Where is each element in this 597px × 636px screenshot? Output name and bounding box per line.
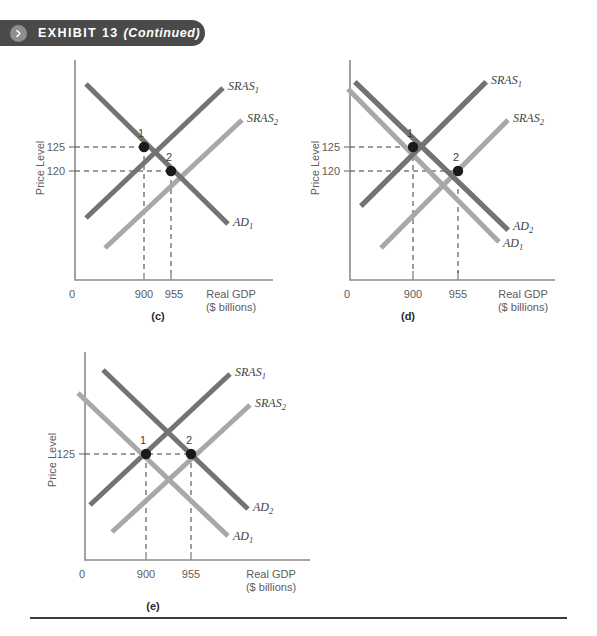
exhibit-number: EXHIBIT 13 (38, 26, 119, 40)
point-label-1: 1 (140, 434, 146, 446)
page-bottom-rule (30, 617, 567, 619)
exhibit-continued-label: (Continued) (124, 26, 201, 40)
xtick-label-955: 955 (449, 288, 467, 300)
ytick-label-120: 120 (322, 165, 340, 177)
point-label-1: 1 (407, 127, 413, 139)
curve-label-sras2: SRAS2 (247, 111, 279, 127)
xtick-label-955: 955 (165, 288, 183, 300)
chart-svg-c: 1 2 SRAS1 SRAS2 AD1 125 120 0 900 955 Re… (28, 58, 288, 318)
equilibrium-point-2 (186, 449, 196, 459)
point-label-2: 2 (166, 151, 172, 163)
equilibrium-point-1 (139, 142, 149, 152)
equilibrium-point-2 (166, 166, 176, 176)
curve-ad1 (78, 393, 228, 536)
exhibit-header-banner: EXHIBIT 13 (Continued) (0, 20, 205, 46)
curve-label-sras2: SRAS2 (513, 111, 545, 127)
curve-ad1 (348, 89, 499, 242)
xaxis-title-line2: ($ billions) (246, 581, 296, 593)
curve-label-ad1: AD1 (232, 215, 253, 231)
yaxis-title: Price Level (34, 141, 46, 195)
curve-label-ad2: AD2 (512, 219, 534, 235)
ytick-label-125: 125 (47, 141, 65, 153)
panel-caption-d: (d) (268, 310, 548, 322)
chevron-right-icon (10, 25, 27, 42)
chart-panel-d: 1 2 SRAS1 SRAS2 AD2 AD1 125 120 0 900 95… (303, 58, 583, 318)
ytick-label-125: 125 (57, 448, 75, 460)
ytick-label-120: 120 (47, 165, 65, 177)
curve-sras2 (105, 120, 242, 248)
point-label-2: 2 (453, 151, 459, 163)
curve-label-sras2: SRAS2 (255, 396, 287, 412)
point-label-2: 2 (186, 434, 192, 446)
curve-label-ad1: AD1 (232, 529, 253, 545)
equilibrium-point-1 (141, 449, 151, 459)
curve-label-ad1: AD1 (502, 236, 523, 252)
point-label-1: 1 (138, 127, 144, 139)
chart-svg-d: 1 2 SRAS1 SRAS2 AD2 AD1 125 120 0 900 95… (303, 58, 583, 318)
chart-panel-e: 1 2 SRAS1 SRAS2 AD2 AD1 125 0 900 955 Re… (58, 350, 338, 615)
xaxis-title-line1: Real GDP (206, 288, 256, 300)
xtick-label-955: 955 (182, 568, 200, 580)
yaxis-title: Price Level (46, 433, 58, 487)
curve-label-sras1: SRAS1 (228, 79, 259, 95)
page-title: EXHIBIT 13 (Continued) (38, 26, 200, 40)
chart-panel-c: 1 2 SRAS1 SRAS2 AD1 125 120 0 900 955 Re… (28, 58, 288, 318)
xaxis-title-line1: Real GDP (246, 568, 296, 580)
panel-caption-e: (e) (13, 600, 293, 612)
curve-label-sras1: SRAS1 (491, 73, 522, 89)
origin-label: 0 (79, 568, 85, 580)
curve-ad2-overlay (355, 82, 508, 230)
equilibrium-point-1 (408, 142, 418, 152)
curve-label-ad2: AD2 (252, 500, 274, 516)
origin-label: 0 (69, 288, 75, 300)
xtick-label-900: 900 (137, 568, 155, 580)
xtick-label-900: 900 (404, 288, 422, 300)
xtick-label-900: 900 (135, 288, 153, 300)
panel-caption-c: (c) (28, 310, 288, 322)
curve-sras2 (112, 405, 250, 532)
origin-label: 0 (344, 288, 350, 300)
curve-label-sras1: SRAS1 (235, 365, 266, 381)
ytick-label-125: 125 (322, 141, 340, 153)
equilibrium-point-2 (453, 166, 463, 176)
chart-svg-e: 1 2 SRAS1 SRAS2 AD2 AD1 125 0 900 955 Re… (58, 350, 338, 615)
yaxis-title: Price Level (309, 141, 321, 195)
xaxis-title-line1: Real GDP (498, 288, 548, 300)
